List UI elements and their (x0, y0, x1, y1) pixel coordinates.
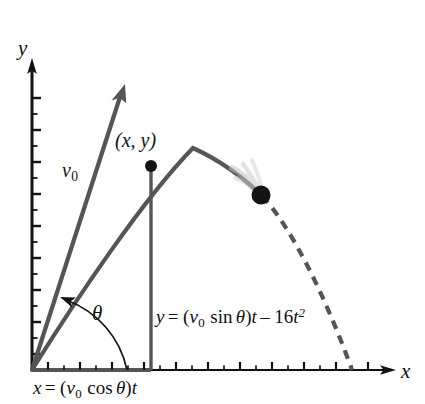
x-axis-ticks (48, 362, 368, 370)
eq-y-trig: sin (210, 306, 232, 327)
eq-y-coefficient: 16 (274, 306, 293, 327)
equation-y-label: y=(v0sinθ)t–16t2 (156, 307, 305, 330)
angle-theta-label: θ (92, 303, 102, 324)
trajectory-dashed-curve (262, 196, 352, 370)
eq-y-v: v (189, 306, 197, 327)
equation-x-label: x=(v0cosθ)t (33, 378, 137, 401)
initial-velocity-vector (32, 84, 126, 370)
eq-y-lhs: y (156, 306, 164, 327)
eq-y-equals: = (168, 306, 180, 327)
velocity-symbol: v (62, 159, 71, 181)
eq-y-v-subscript: 0 (198, 315, 205, 330)
eq-y-t1: t (252, 306, 257, 327)
velocity-vector-label: v0 (62, 160, 78, 183)
figure-canvas (0, 0, 425, 404)
eq-y-exponent: 2 (299, 305, 305, 320)
point-xy-marker (145, 160, 157, 172)
eq-y-minus: – (260, 306, 271, 327)
eq-x-equals: = (45, 377, 57, 398)
eq-x-v-subscript: 0 (75, 386, 82, 401)
velocity-subscript: 0 (71, 169, 78, 184)
eq-x-trig: cos (87, 377, 112, 398)
eq-x-t1: t (132, 377, 137, 398)
eq-x-v: v (66, 377, 74, 398)
eq-y-theta: θ (236, 306, 245, 327)
x-axis-label: x (401, 361, 410, 382)
y-axis-label: y (18, 38, 27, 59)
eq-x-lhs: x (33, 377, 41, 398)
projectile-ball (252, 186, 271, 205)
eq-x-theta: θ (116, 377, 125, 398)
point-xy-label: (x, y) (115, 130, 156, 150)
projectile-motion-figure: y x v0 (x, y) θ y=(v0sinθ)t–16t2 x=(v0co… (0, 0, 425, 404)
